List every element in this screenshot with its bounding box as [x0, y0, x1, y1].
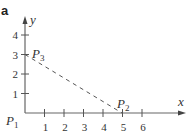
- point-label-p2: P2: [116, 96, 129, 113]
- x-tick-label: 4: [101, 121, 107, 133]
- x-tick-label: 3: [82, 121, 88, 133]
- coordinate-diagram: a x y 1 2 3 4 5 6 1 2 3 4 P1 P2 P3: [0, 0, 196, 139]
- x-tick-label: 6: [140, 121, 146, 133]
- x-axis-arrow-icon: [178, 111, 186, 116]
- y-tick-label: 4: [13, 29, 19, 41]
- segment-p3-p2: [25, 55, 122, 114]
- y-tick-labels: 1 2 3 4: [13, 29, 19, 100]
- y-axis-label: y: [28, 12, 36, 27]
- x-tick-labels: 1 2 3 4 5 6: [43, 121, 147, 133]
- y-axis-arrow-icon: [23, 16, 28, 24]
- x-tick-label: 5: [121, 121, 127, 133]
- panel-label: a: [1, 3, 9, 18]
- x-tick-label: 2: [62, 121, 68, 133]
- y-tick-label: 3: [13, 49, 19, 61]
- y-tick-label: 1: [13, 88, 19, 100]
- y-tick-label: 2: [13, 68, 19, 80]
- x-tick-label: 1: [43, 121, 49, 133]
- point-label-p1: P1: [5, 113, 18, 130]
- x-axis-label: x: [177, 94, 184, 109]
- point-label-p3: P3: [31, 46, 45, 63]
